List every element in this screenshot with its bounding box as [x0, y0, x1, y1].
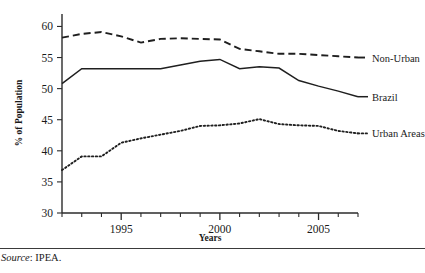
chart-plot-area: 30354045505560 199520002005 Non-UrbanBra…: [0, 0, 425, 245]
series-line-urban-areas: [62, 119, 358, 170]
y-tick-label-55: 55: [42, 52, 54, 64]
y-tick-label-50: 50: [42, 83, 54, 95]
series-line-non-urban: [62, 32, 358, 58]
x-tick-label-1995: 1995: [110, 223, 133, 235]
y-axis-title: % of Population: [14, 79, 24, 146]
source-value: IPEA.: [35, 252, 61, 263]
y-axis-tick-labels: 30354045505560: [42, 20, 54, 219]
y-axis-ticks: [57, 26, 62, 213]
source-note: Source: IPEA.: [0, 248, 425, 263]
series-label-non-urban: Non-Urban: [372, 53, 421, 64]
series-label-urban-areas: Urban Areas: [372, 128, 425, 139]
figure-container: 30354045505560 199520002005 Non-UrbanBra…: [0, 0, 425, 273]
y-tick-label-45: 45: [42, 114, 54, 126]
series-line-brazil: [62, 59, 358, 96]
x-axis-title: Years: [199, 233, 222, 243]
line-chart: 30354045505560 199520002005 Non-UrbanBra…: [0, 0, 425, 245]
x-axis-ticks: [62, 213, 358, 220]
y-tick-label-30: 30: [42, 207, 54, 219]
series-label-group: Non-UrbanBrazilUrban Areas: [372, 53, 425, 140]
data-series-group: [62, 32, 368, 170]
x-tick-label-2005: 2005: [307, 223, 330, 235]
series-label-brazil: Brazil: [372, 92, 398, 103]
source-text: Source: IPEA.: [0, 249, 425, 263]
y-tick-label-40: 40: [42, 145, 54, 157]
y-tick-label-35: 35: [42, 176, 54, 188]
y-tick-label-60: 60: [42, 20, 54, 32]
source-label: Source: [1, 252, 30, 263]
